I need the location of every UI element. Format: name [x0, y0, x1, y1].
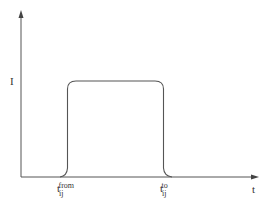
y-axis-arrow-icon	[19, 10, 24, 18]
x-axis-label: t	[252, 184, 255, 195]
y-axis-label: I	[10, 76, 14, 87]
marker-to-label: tijto	[160, 179, 174, 195]
marker-from-label: tijfrom	[57, 179, 80, 195]
pulse-curve	[60, 81, 172, 177]
pulse-diagram	[0, 0, 272, 203]
x-axis-arrow-icon	[251, 175, 259, 180]
